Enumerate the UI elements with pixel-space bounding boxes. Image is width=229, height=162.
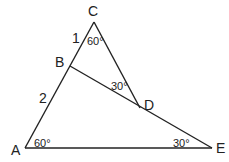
segment-BE	[70, 66, 212, 148]
side-label-cb: 1	[72, 31, 80, 45]
angle-label-a: 60°	[34, 138, 51, 149]
geometry-diagram: C B A D E 1 2 60° 30° 60° 30°	[0, 0, 229, 162]
segment-AC	[25, 22, 94, 148]
angle-label-bdc: 30°	[111, 81, 128, 92]
vertex-label-e: E	[216, 141, 225, 155]
vertex-label-a: A	[11, 143, 20, 157]
vertex-label-d: D	[144, 98, 154, 112]
angle-label-e: 30°	[173, 138, 190, 149]
vertex-label-c: C	[88, 4, 98, 18]
angle-label-c: 60°	[87, 36, 104, 47]
side-label-ba: 2	[39, 91, 47, 105]
vertex-label-b: B	[55, 55, 64, 69]
